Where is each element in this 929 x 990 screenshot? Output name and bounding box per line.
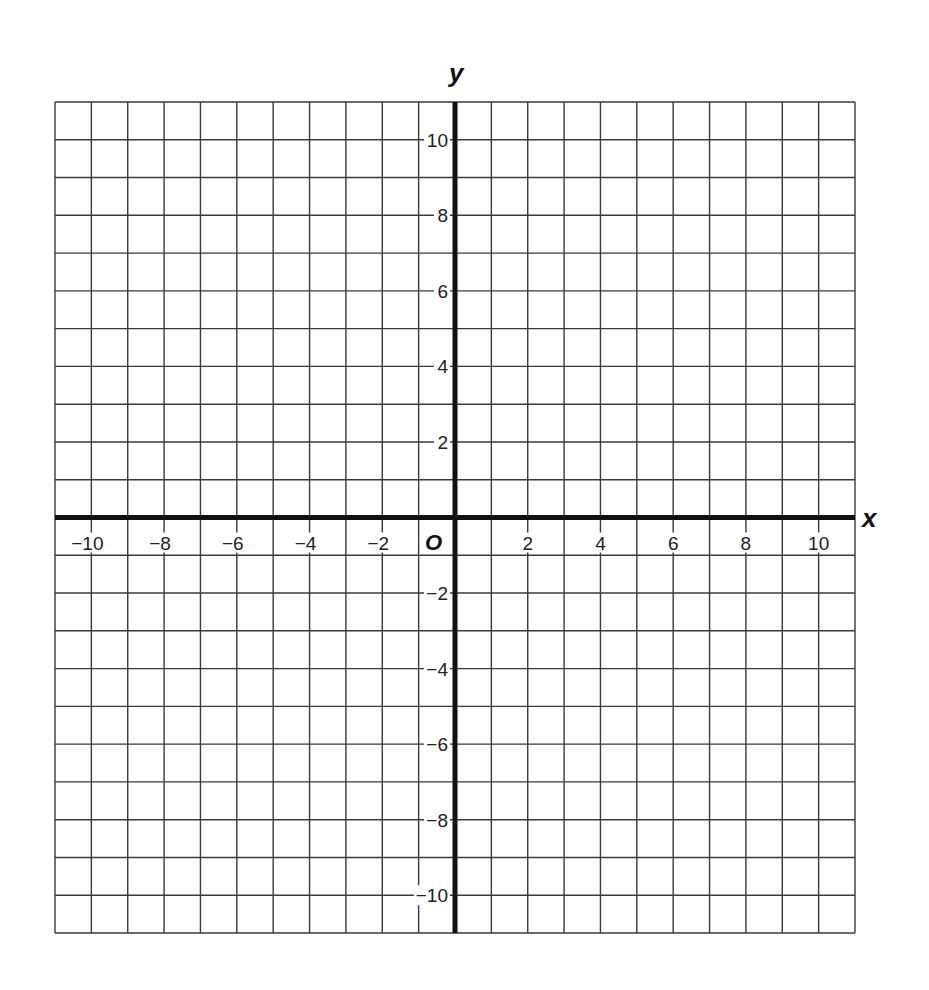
- x-axis-label: x: [860, 503, 878, 533]
- y-tick-label: −4: [426, 659, 448, 680]
- y-tick-label: −8: [426, 810, 448, 831]
- x-tick-label: 8: [741, 533, 752, 554]
- y-tick-label: 8: [437, 205, 448, 226]
- y-tick-label: 6: [437, 281, 448, 302]
- y-tick-label: −2: [426, 583, 448, 604]
- x-tick-label: −4: [295, 533, 317, 554]
- x-tick-label: 6: [668, 533, 679, 554]
- x-tick-label: −2: [367, 533, 389, 554]
- y-tick-label: 2: [437, 432, 448, 453]
- y-axis-label: y: [447, 58, 465, 88]
- y-tick-label: 10: [427, 130, 448, 151]
- x-tick-label: −10: [71, 533, 103, 554]
- x-tick-labels: −10−8−6−4−2246810: [70, 533, 830, 554]
- y-tick-label: −6: [426, 734, 448, 755]
- x-tick-label: −8: [149, 533, 171, 554]
- coordinate-plane: −10−8−6−4−2246810 108642−2−4−6−8−10 x y …: [0, 0, 929, 990]
- origin-label: O: [425, 530, 442, 555]
- x-tick-label: −6: [222, 533, 244, 554]
- x-tick-label: 10: [808, 533, 829, 554]
- x-tick-label: 4: [595, 533, 606, 554]
- y-tick-label: 4: [437, 356, 448, 377]
- y-tick-label: −10: [416, 885, 448, 906]
- axes: [55, 102, 855, 933]
- x-tick-label: 2: [522, 533, 533, 554]
